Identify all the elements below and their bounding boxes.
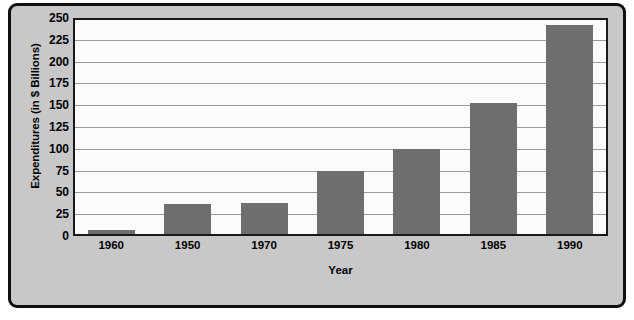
y-axis-tick-label: 250 bbox=[49, 12, 69, 24]
bar bbox=[241, 203, 288, 234]
bar-series bbox=[75, 20, 606, 234]
bar bbox=[546, 25, 593, 234]
x-axis-tick-label: 1975 bbox=[328, 239, 354, 251]
bar bbox=[164, 204, 211, 234]
y-axis-tick-label: 200 bbox=[49, 56, 69, 68]
y-axis-tick-label: 25 bbox=[56, 208, 69, 220]
bar bbox=[393, 149, 440, 234]
y-axis-tick-label: 225 bbox=[49, 34, 69, 46]
y-axis-tick-label: 125 bbox=[49, 121, 69, 133]
y-axis-tick-label: 175 bbox=[49, 77, 69, 89]
y-axis-tick-labels: 0255075100125150175200225250 bbox=[35, 18, 69, 236]
y-axis-tick-label: 100 bbox=[49, 143, 69, 155]
x-axis-title: Year bbox=[73, 264, 608, 276]
x-axis-tick-label: 1960 bbox=[98, 239, 124, 251]
y-axis-tick-label: 150 bbox=[49, 99, 69, 111]
x-axis-tick-label: 1990 bbox=[557, 239, 583, 251]
x-axis-tick-label: 1985 bbox=[481, 239, 507, 251]
y-axis-tick-label: 50 bbox=[56, 186, 69, 198]
y-axis-tick-label: 0 bbox=[62, 230, 69, 242]
y-axis-tick-label: 75 bbox=[56, 165, 69, 177]
x-axis-tick-label: 1950 bbox=[175, 239, 201, 251]
plot-area bbox=[73, 18, 608, 236]
x-axis-tick-label: 1980 bbox=[404, 239, 430, 251]
x-axis-tick-label: 1970 bbox=[251, 239, 277, 251]
bar bbox=[470, 103, 517, 234]
x-axis-tick-labels: 1960195019701975198019851990 bbox=[73, 239, 608, 257]
bar bbox=[317, 171, 364, 234]
chart-figure: Expenditures (in $ Billions) 02550751001… bbox=[8, 3, 626, 308]
bar bbox=[88, 230, 135, 234]
